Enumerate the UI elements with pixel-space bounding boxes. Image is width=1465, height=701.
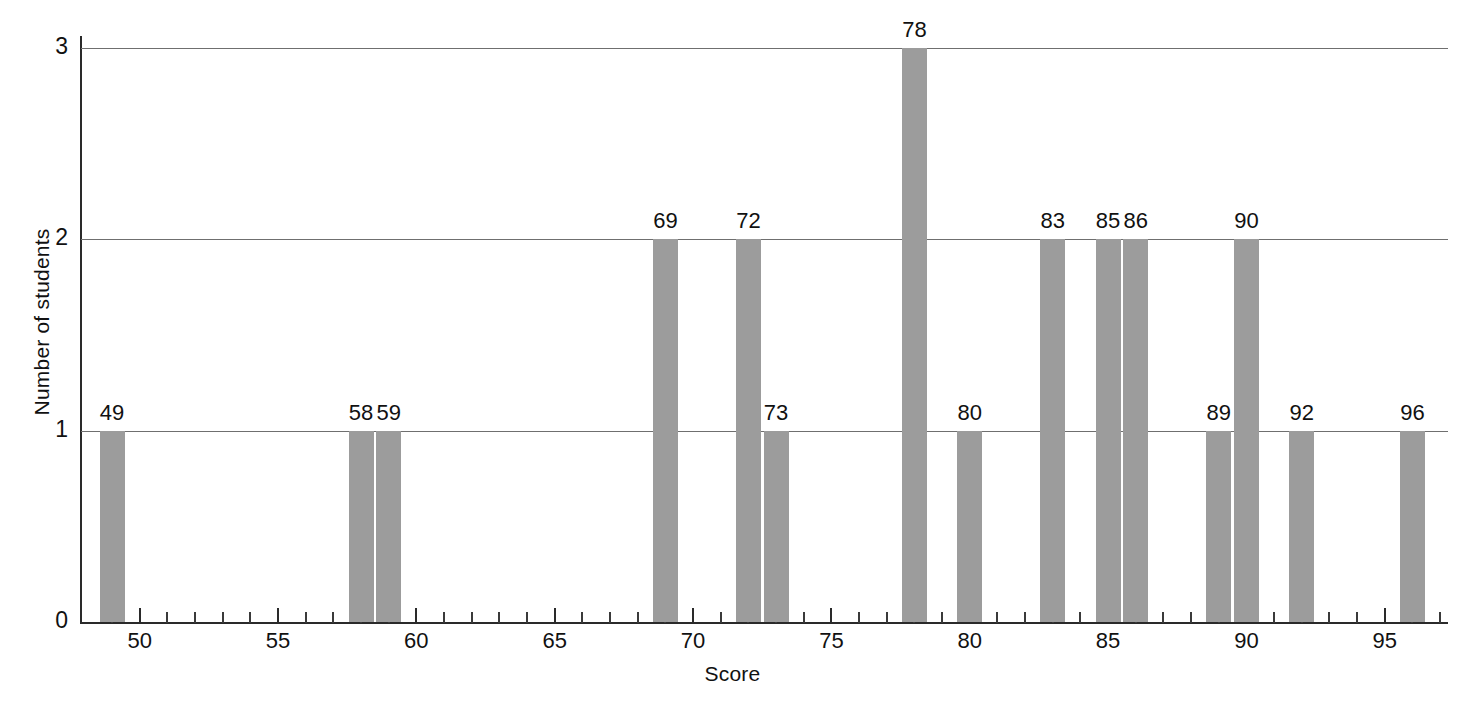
x-tick-minor-74	[803, 612, 805, 623]
bar-score-85	[1096, 239, 1121, 622]
x-tick-minor-82	[1024, 612, 1026, 623]
x-tick-minor-67	[609, 612, 611, 623]
bar-score-58	[349, 431, 374, 623]
bar-label-score-72: 72	[713, 208, 783, 234]
y-tick-label-1: 1	[28, 416, 68, 443]
x-tick-minor-63	[498, 612, 500, 623]
x-tick-minor-91	[1273, 612, 1275, 623]
x-tick-label-80: 80	[940, 628, 1000, 654]
bar-label-score-80: 80	[935, 400, 1005, 426]
x-tick-major-50	[139, 608, 141, 623]
bar-score-59	[376, 431, 401, 623]
bar-label-score-73: 73	[741, 400, 811, 426]
bar-label-score-49: 49	[77, 400, 147, 426]
bar-score-96	[1400, 431, 1425, 623]
y-axis-line	[80, 36, 82, 624]
x-tick-minor-97	[1439, 612, 1441, 623]
bar-label-score-86: 86	[1101, 208, 1171, 234]
x-tick-minor-88	[1190, 612, 1192, 623]
x-tick-major-70	[692, 608, 694, 623]
y-tick-label-3: 3	[28, 33, 68, 60]
x-tick-major-60	[415, 608, 417, 623]
x-tick-minor-64	[526, 612, 528, 623]
bar-label-score-69: 69	[630, 208, 700, 234]
x-tick-label-70: 70	[663, 628, 723, 654]
bar-score-49	[100, 431, 125, 623]
x-tick-label-75: 75	[801, 628, 861, 654]
x-tick-label-50: 50	[110, 628, 170, 654]
x-tick-label-60: 60	[386, 628, 446, 654]
bar-label-score-92: 92	[1267, 400, 1337, 426]
x-tick-minor-94	[1356, 612, 1358, 623]
x-tick-major-75	[830, 608, 832, 623]
bar-score-78	[902, 48, 927, 623]
x-tick-minor-77	[886, 612, 888, 623]
x-tick-label-65: 65	[525, 628, 585, 654]
x-tick-minor-84	[1079, 612, 1081, 623]
y-tick-label-2: 2	[28, 224, 68, 251]
x-tick-major-55	[277, 608, 279, 623]
x-tick-minor-81	[996, 612, 998, 623]
x-tick-minor-76	[858, 612, 860, 623]
x-axis-line	[80, 622, 1448, 624]
bar-score-73	[764, 431, 789, 623]
x-tick-minor-56	[305, 612, 307, 623]
x-axis-title: Score	[0, 662, 1465, 686]
x-tick-minor-61	[443, 612, 445, 623]
y-tick-label-0: 0	[28, 607, 68, 634]
x-tick-minor-71	[720, 612, 722, 623]
bar-score-89	[1206, 431, 1231, 623]
x-tick-label-85: 85	[1078, 628, 1138, 654]
bar-score-80	[957, 431, 982, 623]
gridline-y-3	[81, 48, 1448, 49]
x-tick-minor-68	[637, 612, 639, 623]
x-tick-minor-54	[249, 612, 251, 623]
bar-label-score-90: 90	[1211, 208, 1281, 234]
bar-label-score-78: 78	[879, 17, 949, 43]
bar-label-score-96: 96	[1377, 400, 1447, 426]
bar-score-90	[1234, 239, 1259, 622]
x-tick-major-95	[1384, 608, 1386, 623]
x-tick-minor-87	[1162, 612, 1164, 623]
x-tick-minor-51	[166, 612, 168, 623]
bar-score-86	[1123, 239, 1148, 622]
x-tick-minor-66	[581, 612, 583, 623]
x-tick-minor-93	[1328, 612, 1330, 623]
x-tick-label-55: 55	[248, 628, 308, 654]
bar-score-69	[653, 239, 678, 622]
bar-label-score-59: 59	[354, 400, 424, 426]
x-tick-minor-53	[222, 612, 224, 623]
x-tick-label-95: 95	[1355, 628, 1415, 654]
x-tick-minor-52	[194, 612, 196, 623]
bar-score-83	[1040, 239, 1065, 622]
x-tick-minor-62	[471, 612, 473, 623]
bar-score-92	[1289, 431, 1314, 623]
score-distribution-chart: Number of students Score 0123 5055606570…	[0, 0, 1465, 701]
x-tick-label-90: 90	[1216, 628, 1276, 654]
x-tick-minor-57	[332, 612, 334, 623]
x-tick-major-65	[554, 608, 556, 623]
x-tick-minor-79	[941, 612, 943, 623]
bar-score-72	[736, 239, 761, 622]
